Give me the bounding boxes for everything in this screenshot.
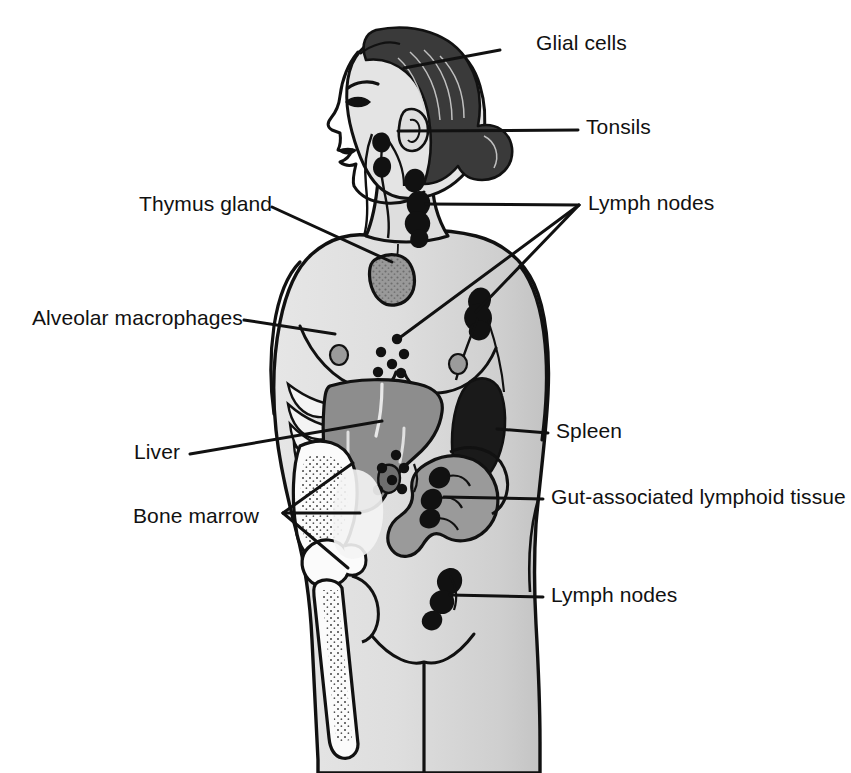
- label-spleen: Spleen: [556, 420, 622, 441]
- anatomy-figure: Glial cellsTonsilsLymph nodesThymus glan…: [0, 0, 851, 773]
- leader-line-lymph-nodes-lower: [450, 595, 543, 597]
- label-glial-cells: Glial cells: [536, 32, 627, 53]
- lips: [338, 148, 357, 155]
- anatomy-illustration: [0, 0, 851, 773]
- label-bone-marrow: Bone marrow: [133, 505, 259, 526]
- leader-line-lymph-nodes-upper: [426, 204, 579, 205]
- label-gut-associated-lymphoid-tissue: Gut-associated lymphoid tissue: [551, 486, 846, 507]
- label-liver: Liver: [134, 441, 180, 462]
- label-thymus-gland: Thymus gland: [139, 193, 272, 214]
- label-alveolar-macrophages: Alveolar macrophages: [32, 307, 243, 328]
- left-nipple: [330, 345, 348, 365]
- eye: [346, 98, 370, 107]
- leader-line-tonsils: [398, 130, 578, 131]
- label-lymph-nodes-lower: Lymph nodes: [551, 584, 677, 605]
- leader-line-gut-associated-lymphoid-tissue: [444, 497, 543, 499]
- right-nipple: [449, 354, 467, 374]
- label-tonsils: Tonsils: [586, 116, 651, 137]
- label-lymph-nodes-upper: Lymph nodes: [588, 192, 714, 213]
